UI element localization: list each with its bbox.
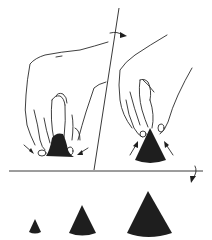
clay-lump <box>46 134 74 158</box>
panel-dividers <box>9 8 203 171</box>
diagram-canvas <box>0 0 212 240</box>
diagram-svg <box>0 0 212 240</box>
pinch-arrow-right-icon <box>164 141 173 155</box>
cone-large <box>127 191 172 237</box>
cone-sequence <box>29 191 172 237</box>
cone-small <box>29 219 41 234</box>
rotate-arrow-right-icon <box>190 166 196 183</box>
rotate-arrow-top-icon <box>110 32 127 38</box>
step-2-hand-illustration <box>119 35 192 163</box>
cone-medium <box>69 205 96 236</box>
pinch-arrow-left-icon <box>130 141 138 155</box>
press-arrow-right-icon <box>77 148 88 155</box>
press-arrow-left-icon <box>24 145 34 154</box>
step-1-hand-illustration <box>24 42 108 157</box>
